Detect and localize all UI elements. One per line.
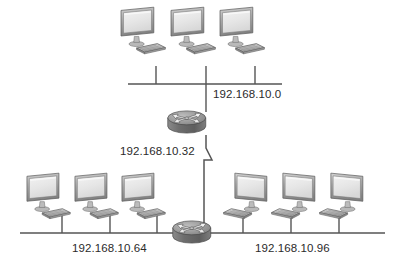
top-router[interactable]: [168, 111, 206, 133]
host-bottom-left-3: [122, 173, 165, 218]
host-bottom-right-1: [224, 173, 267, 218]
host-top-2: [171, 7, 215, 54]
host-bottom-left-2: [75, 173, 118, 218]
network-label-top: 192.168.10.0: [213, 89, 281, 101]
bottom-router[interactable]: [173, 221, 211, 243]
host-top-1: [121, 7, 165, 54]
link-between-routers: [204, 135, 212, 224]
host-bottom-right-3: [320, 173, 363, 218]
host-top-3: [220, 7, 264, 54]
network-label-serial-link: 192.168.10.32: [120, 146, 195, 158]
network-label-bottom-right: 192.168.10.96: [255, 243, 330, 255]
serial-link-path: [204, 135, 212, 224]
network-label-bottom-left: 192.168.10.64: [72, 243, 147, 255]
host-bottom-left-1: [27, 173, 70, 218]
segment-bottom-left: [27, 173, 165, 233]
network-diagram: 192.168.10.0 192.168.10.32 192.168.10.64…: [0, 0, 397, 269]
host-bottom-right-2: [272, 173, 315, 218]
network-diagram-canvas: [0, 0, 397, 269]
segment-bottom-right: [224, 173, 363, 233]
